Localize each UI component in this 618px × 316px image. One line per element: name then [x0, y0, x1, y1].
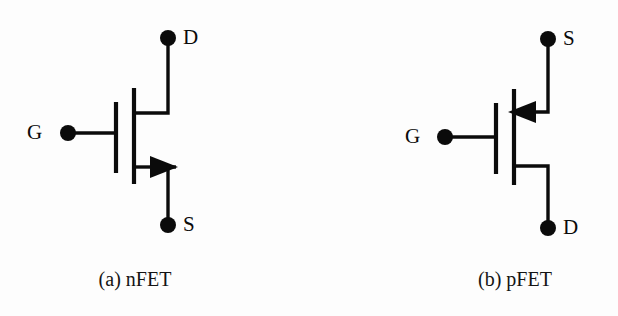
nfet-symbol	[60, 30, 178, 233]
pfet-gate-terminal-dot	[437, 129, 453, 145]
nfet-gate-label: G	[27, 122, 42, 143]
nfet-source-terminal-dot	[160, 217, 176, 233]
pfet-symbol	[437, 31, 556, 236]
nfet-drain-label: D	[183, 27, 198, 48]
pfet-caption: (b) pFET	[440, 268, 590, 290]
fet-symbols-figure: D G S (a) nFET S G D (b) pFET	[0, 0, 618, 316]
pfet-drain-label: D	[563, 217, 578, 238]
pfet-source-wire	[534, 39, 548, 112]
pfet-drain-wire	[514, 166, 548, 228]
nfet-source-label: S	[183, 214, 195, 235]
nfet-caption: (a) nFET	[60, 268, 210, 290]
nfet-gate-terminal-dot	[60, 125, 76, 141]
nfet-drain-wire	[134, 38, 168, 113]
pfet-source-label: S	[563, 28, 575, 49]
pfet-drain-terminal-dot	[540, 220, 556, 236]
pfet-gate-label: G	[405, 126, 420, 147]
